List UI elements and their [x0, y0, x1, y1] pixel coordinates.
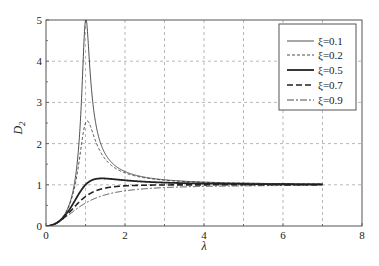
svg-text:ξ=0.5: ξ=0.5: [318, 64, 343, 77]
legend: ξ=0.1 ξ=0.2 ξ=0.5 ξ=0.7 ξ=0.9: [279, 24, 356, 110]
series-line: [46, 185, 323, 226]
x-tick-label: 6: [280, 229, 286, 241]
y-tick-label: 1: [37, 179, 43, 191]
svg-text:ξ=0.7: ξ=0.7: [318, 79, 343, 92]
chart: 02468012345 λ D2 ξ=0.1 ξ=0.2 ξ=0.5 ξ=0.7…: [0, 0, 379, 266]
y-axis-label: D2: [11, 121, 27, 136]
y-tick-label: 4: [37, 55, 43, 67]
x-tick-label: 0: [43, 229, 49, 241]
x-tick-label: 8: [359, 229, 365, 241]
series-line: [46, 185, 323, 226]
series-line: [46, 121, 323, 226]
y-tick-label: 3: [37, 96, 43, 108]
svg-text:ξ=0.9: ξ=0.9: [318, 94, 343, 107]
svg-text:ξ=0.2: ξ=0.2: [318, 49, 343, 62]
y-tick-label: 2: [37, 138, 43, 150]
x-tick-label: 2: [122, 229, 128, 241]
y-tick-label: 0: [37, 220, 43, 232]
x-axis-label: λ: [200, 239, 206, 253]
svg-text:ξ=0.1: ξ=0.1: [318, 35, 343, 48]
y-tick-label: 5: [37, 14, 43, 26]
